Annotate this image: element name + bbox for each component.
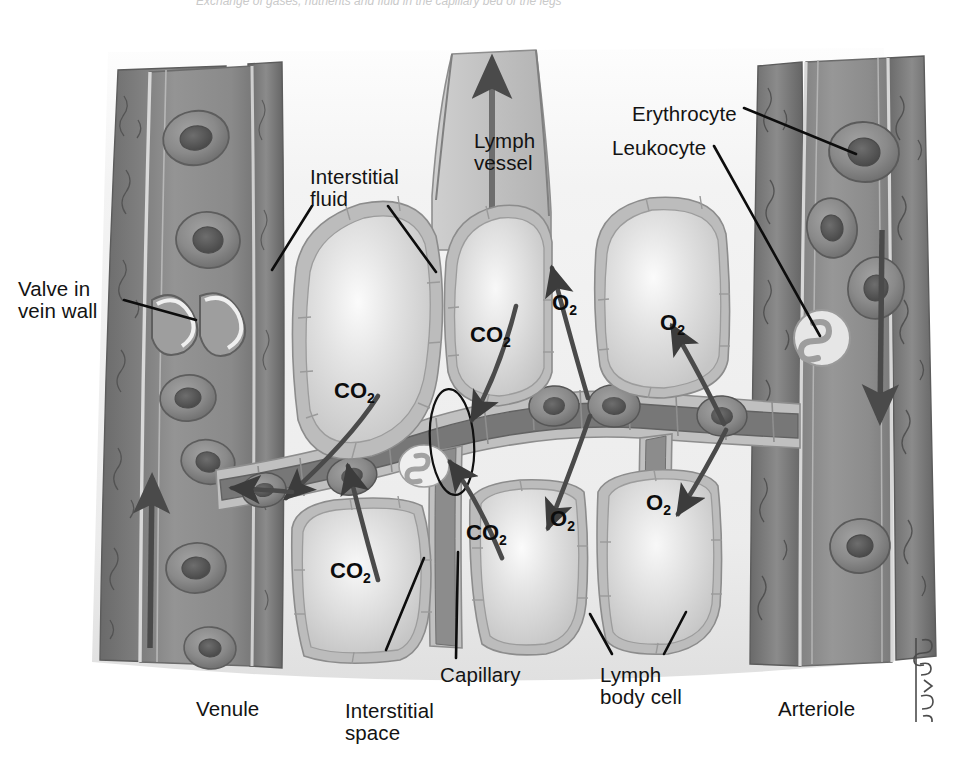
leukocyte-capillary xyxy=(399,445,449,487)
gas-label-o2-upper-left: O2 xyxy=(552,290,577,318)
arteriole-flow-arrow xyxy=(880,230,882,420)
label-lymph-vessel: Lymph vessel xyxy=(474,130,535,174)
gas-label-o2-lower-left: O2 xyxy=(550,506,575,534)
gas-label-co2-lower-mid: CO2 xyxy=(466,520,507,548)
gas-label-co2-upper-mid: CO2 xyxy=(470,322,511,350)
leukocyte-arteriole xyxy=(794,310,850,366)
body-cell-upper-middle xyxy=(444,205,554,406)
label-leukocyte: Leukocyte xyxy=(612,137,706,159)
label-erythrocyte: Erythrocyte xyxy=(632,103,737,125)
gas-label-o2-upper-right: O2 xyxy=(660,310,685,338)
body-cell-upper-left xyxy=(292,196,442,459)
venule-flow-arrow xyxy=(150,478,152,648)
venule-vessel xyxy=(100,62,284,671)
label-lymph-body-cell: Lymph body cell xyxy=(600,664,682,708)
figure-caption: Exchange of gases, nutrients and fluid i… xyxy=(196,0,562,8)
label-capillary: Capillary xyxy=(440,664,521,686)
diagram-canvas: Exchange of gases, nutrients and fluid i… xyxy=(0,0,976,770)
microcirculation-illustration xyxy=(0,0,976,770)
label-interstitial-fluid: Interstitial fluid xyxy=(310,166,399,210)
body-cell-upper-right xyxy=(595,196,730,398)
label-arteriole: Arteriole xyxy=(778,698,855,720)
gas-label-o2-lower-right: O2 xyxy=(646,490,671,518)
label-venule: Venule xyxy=(196,698,259,720)
gas-label-co2-upper-left: CO2 xyxy=(334,378,375,406)
label-valve-in-vein-wall: Valve in vein wall xyxy=(18,278,98,322)
label-interstitial-space: Interstitial space xyxy=(345,700,434,744)
gas-label-co2-lower-left: CO2 xyxy=(330,558,371,586)
